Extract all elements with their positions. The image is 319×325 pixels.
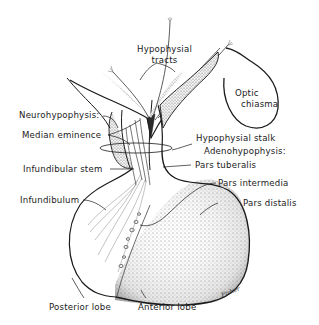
pituitary-diagram: Fisher Hypophysial tracts Optic chiasma …: [0, 0, 319, 325]
label-anterior-lobe: Anterior lobe: [138, 303, 196, 312]
label-hypophysial-tracts-line2: tracts: [137, 56, 192, 65]
label-optic-chiasma-line1: Optic: [235, 89, 278, 98]
label-pars-tuberalis: Pars tuberalis: [195, 161, 256, 170]
label-optic-chiasma-line2: chiasma: [241, 100, 278, 109]
label-infundibulum: Infundibulum: [20, 196, 79, 205]
label-hypophysial-stalk: Hypophysial stalk: [196, 134, 275, 143]
label-pars-distalis: Pars distalis: [243, 199, 297, 208]
label-hypophysial-tracts: Hypophysial tracts: [137, 45, 192, 64]
stalk-tracts: [126, 118, 150, 185]
label-infundibular-stem: Infundibular stem: [23, 165, 102, 174]
stalk-section-ring: [100, 143, 172, 153]
label-median-eminence: Median eminence: [22, 131, 101, 140]
third-ventricle-left-wall: [67, 78, 110, 128]
label-pars-intermedia: Pars intermedia: [218, 179, 288, 188]
label-neurohypophysis: Neurohypophysis:: [19, 111, 99, 120]
label-posterior-lobe: Posterior lobe: [49, 303, 111, 312]
hypothalamus-funnel: [70, 52, 218, 138]
label-hypophysial-tracts-line1: Hypophysial: [137, 45, 192, 54]
label-adenohypophysis: Adenohypophysis:: [204, 147, 286, 156]
label-optic-chiasma: Optic chiasma: [235, 89, 278, 108]
